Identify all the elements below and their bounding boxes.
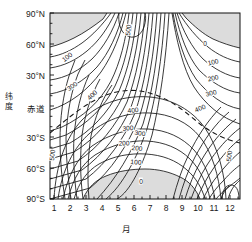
contour-label-200-8: 200	[118, 139, 130, 147]
y-tick-60s: 60°S	[3, 164, 45, 174]
y-axis-title-char-1: 纬	[1, 92, 17, 102]
contour-label-0-9: 0	[203, 40, 207, 47]
y-tick-30s: 30°S	[3, 133, 45, 143]
contour-label-0-17: 0	[139, 178, 143, 185]
contour-label-500-5: 500	[225, 150, 233, 162]
insolation-contour-figure: 纬 度 90°N 60°N 30°N 赤道 30°S 60°S 90°S 1 2…	[0, 0, 252, 242]
y-tick-60n: 60°N	[3, 40, 45, 50]
y-tick-90n: 90°N	[3, 9, 45, 19]
contour-label-500-4: 500	[48, 149, 56, 161]
y-tick-90s: 90°S	[3, 194, 45, 204]
contour-label-100-16: 100	[130, 158, 142, 166]
x-axis-title: 月	[0, 222, 252, 234]
y-tick-equator: 赤道	[3, 102, 45, 114]
contour-label-300-14: 300	[134, 129, 147, 138]
contour-label-500-3: 500	[124, 24, 132, 36]
x-tick-12: 12	[221, 203, 239, 213]
y-tick-30n: 30°N	[3, 71, 45, 81]
contour-label-400-6: 400	[127, 106, 139, 114]
contour-label-200-15: 200	[131, 144, 143, 152]
contour-label-300-7: 300	[122, 124, 134, 132]
